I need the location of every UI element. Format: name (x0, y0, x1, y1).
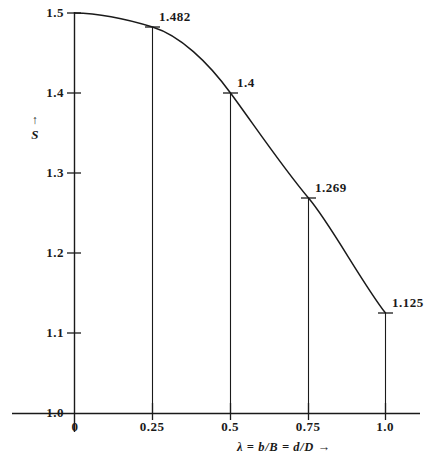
x-tick-label-0.75: 0.75 (284, 420, 332, 433)
x-axis-title: λ = b/B = d/D → (237, 441, 331, 454)
x-tick-label-1.0: 1.0 (361, 420, 409, 433)
y-tick-label-1.2: 1.2 (22, 246, 64, 259)
chart-plot-area (0, 0, 433, 463)
data-label-1.269: 1.269 (315, 181, 347, 194)
data-label-1.125: 1.125 (392, 296, 424, 309)
x-tick-label-0: 0 (51, 420, 99, 433)
y-tick-label-1.3: 1.3 (22, 166, 64, 179)
x-tick-label-0.5: 0.5 (206, 420, 254, 433)
y-axis-arrow-icon: ↑ (25, 114, 45, 126)
y-tick-label-1.0: 1.0 (22, 406, 64, 419)
drop-lines (153, 27, 386, 413)
y-axis-title: S (25, 128, 45, 141)
y-tick-label-1.1: 1.1 (22, 326, 64, 339)
y-tick-label-1.4: 1.4 (22, 86, 64, 99)
x-tick-label-0.25: 0.25 (128, 420, 176, 433)
data-label-1.482: 1.482 (159, 10, 191, 23)
chart-figure: 1.5 1.4 1.3 1.2 1.1 1.0 ↑ S 0 0.25 0.5 0… (0, 0, 433, 463)
y-tick-label-1.5: 1.5 (22, 6, 64, 19)
x-axis-ticks (153, 403, 386, 420)
data-label-1.4: 1.4 (237, 76, 255, 89)
